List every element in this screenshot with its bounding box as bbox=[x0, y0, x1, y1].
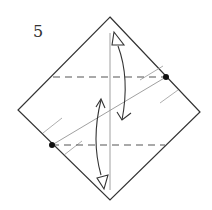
hint-crease bbox=[140, 66, 163, 80]
hint-crease bbox=[64, 141, 82, 155]
hint-crease bbox=[43, 118, 62, 133]
origami-diagram: 5 bbox=[0, 0, 212, 210]
step-number: 5 bbox=[33, 22, 43, 41]
paper-outline bbox=[18, 17, 200, 200]
reference-dot-left bbox=[49, 142, 55, 148]
diagonal-crease bbox=[52, 77, 166, 145]
reference-dot-right bbox=[163, 74, 169, 80]
fold-arrow-upper-icon bbox=[112, 32, 131, 120]
hint-crease bbox=[160, 90, 178, 103]
